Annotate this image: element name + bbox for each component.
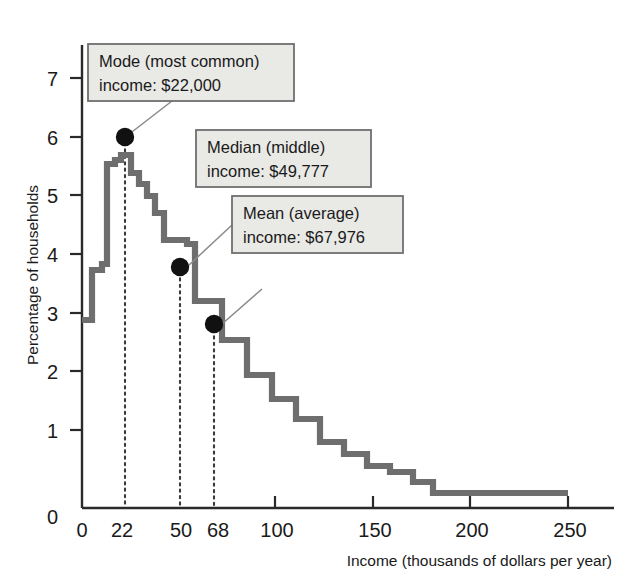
y-axis-tick-labels: 7 6 5 4 3 2 1 0 [47, 68, 58, 528]
callout-mode-line1: Mode (most common) [99, 52, 259, 70]
callout-mean-line2: income: $67,976 [243, 228, 365, 246]
x-tick-label-50: 50 [170, 519, 192, 541]
x-tick-label-22: 22 [111, 519, 133, 541]
y-tick-label-5: 5 [47, 185, 58, 207]
callout-mode[interactable]: Mode (most common) income: $22,000 [88, 44, 294, 101]
marker-dot-mode[interactable] [116, 128, 134, 146]
y-tick-label-7: 7 [47, 68, 58, 90]
x-tick-label-0: 0 [76, 519, 87, 541]
x-tick-label-200: 200 [455, 519, 488, 541]
y-tick-label-1: 1 [47, 420, 58, 442]
leader-line-mean [222, 289, 262, 324]
callout-mode-line2: income: $22,000 [99, 76, 221, 94]
y-axis-title: Percentage of households [24, 185, 41, 365]
x-tick-label-150: 150 [358, 519, 391, 541]
callout-median[interactable]: Median (middle) income: $49,777 [196, 130, 371, 187]
marker-dot-median[interactable] [171, 258, 189, 276]
callout-median-line2: income: $49,777 [207, 162, 329, 180]
y-tick-label-6: 6 [47, 127, 58, 149]
marker-droplines [125, 143, 214, 507]
leader-line-mode [128, 101, 172, 135]
x-tick-label-68: 68 [207, 519, 229, 541]
marker-dot-mean[interactable] [205, 315, 223, 333]
callout-mean[interactable]: Mean (average) income: $67,976 [232, 196, 403, 253]
axes-group [82, 45, 614, 508]
x-tick-label-250: 250 [553, 519, 586, 541]
callout-mean-line1: Mean (average) [243, 204, 359, 222]
y-tick-label-4: 4 [47, 244, 58, 266]
callout-median-line1: Median (middle) [207, 138, 325, 156]
y-axis-ticks [70, 78, 82, 430]
x-axis-tick-labels: 0 22 50 68 100 150 200 250 [76, 519, 586, 541]
x-tick-label-100: 100 [260, 519, 293, 541]
y-tick-label-2: 2 [47, 361, 58, 383]
income-distribution-chart: 7 6 5 4 3 2 1 0 0 22 50 68 100 150 200 2… [0, 0, 628, 587]
x-axis-ticks [275, 496, 568, 508]
y-tick-label-0: 0 [47, 506, 58, 528]
y-tick-label-3: 3 [47, 303, 58, 325]
x-axis-title: Income (thousands of dollars per year) [347, 552, 612, 569]
chart-canvas: 7 6 5 4 3 2 1 0 0 22 50 68 100 150 200 2… [0, 0, 628, 587]
